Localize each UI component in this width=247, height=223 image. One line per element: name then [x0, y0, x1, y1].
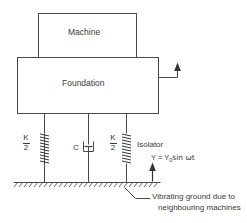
leader-line-icon	[125, 188, 151, 199]
equation-prefix: Y = Y	[151, 153, 169, 162]
foundation-motion-arrow	[159, 63, 181, 78]
spring-left-numerator: K	[21, 134, 31, 142]
spring-right-denominator: 2	[108, 144, 118, 152]
spring-right-assembly	[122, 114, 131, 183]
ground-motion-arrow	[149, 163, 156, 182]
foundation-label: Foundation	[62, 78, 105, 88]
damper-label: C	[73, 143, 79, 152]
caption-line-1: Vibrating ground due to	[152, 192, 241, 203]
isolator-label: Isolator	[137, 140, 163, 149]
hatched-ground-icon	[14, 182, 161, 187]
vibration-isolation-diagram: Machine Foundation K 2 C K 2 Isolator Y …	[0, 0, 247, 223]
caption-line-2: neighbouring machines	[152, 203, 241, 214]
equation-suffix: sin ωt	[172, 153, 194, 162]
spring-left-assembly	[40, 114, 49, 183]
spring-coil-icon	[122, 134, 131, 163]
ground-caption: Vibrating ground due to neighbouring mac…	[152, 192, 241, 213]
diagram-canvas	[0, 0, 247, 223]
spring-right-numerator: K	[108, 134, 118, 142]
ground-excitation-equation: Y = Y0sin ωt	[151, 153, 195, 162]
spring-left-denominator: 2	[21, 144, 31, 152]
machine-label: Machine	[68, 27, 100, 37]
equation-subscript: 0	[169, 157, 172, 163]
spring-right-stiffness-label: K 2	[108, 134, 118, 152]
dashpot-damper-icon	[84, 114, 94, 183]
spring-left-stiffness-label: K 2	[21, 134, 31, 152]
